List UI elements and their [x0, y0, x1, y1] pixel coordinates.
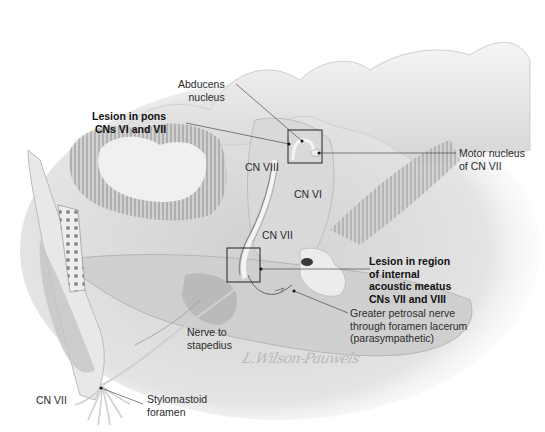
foramen-lacerum [301, 258, 313, 266]
label-lesion-in-pons: Lesion in pons CNs VI and VII [92, 110, 166, 135]
label-cn8: CN VIII [245, 161, 279, 174]
label-stylomastoid-foramen: Stylomastoid foramen [147, 393, 207, 418]
label-nerve-to-stapedius: Nerve to stapedius [187, 326, 232, 351]
label-greater-petrosal-nerve: Greater petrosal nerve through foramen l… [350, 307, 467, 345]
illustration-artwork [0, 0, 545, 432]
anatomical-diagram: Abducens nucleus Lesion in pons CNs VI a… [0, 0, 545, 432]
label-abducens-nucleus: Abducens nucleus [178, 78, 225, 103]
label-cn6: CN VI [294, 188, 322, 201]
label-motor-nucleus-cn7: Motor nucleus of CN VII [459, 147, 525, 172]
label-cn7-upper: CN VII [262, 229, 293, 242]
label-lesion-iam: Lesion in region of internal acoustic me… [369, 255, 451, 305]
label-cn7-lower: CN VII [36, 394, 67, 407]
artist-signature: L.Wilson-Pauwels [241, 350, 362, 366]
